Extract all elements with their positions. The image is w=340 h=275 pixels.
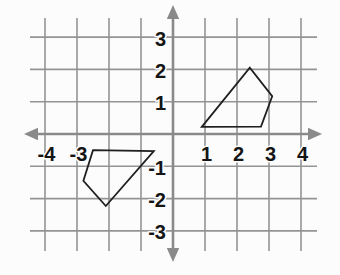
- y-tick-label: 2: [155, 60, 166, 82]
- x-tick-label: 2: [233, 143, 244, 165]
- x-tick-label: 4: [297, 143, 309, 165]
- figure-background: [0, 0, 340, 275]
- x-tick-label: 3: [265, 143, 276, 165]
- y-tick-label: -1: [148, 157, 166, 179]
- graph-figure: -4-31234321-1-2-3: [0, 0, 340, 275]
- y-tick-label: 3: [155, 28, 166, 50]
- x-tick-label: 1: [201, 143, 212, 165]
- y-tick-label: 1: [155, 92, 166, 114]
- x-tick-label: -3: [70, 143, 88, 165]
- y-tick-label: -3: [148, 221, 166, 243]
- coordinate-plane: -4-31234321-1-2-3: [0, 0, 340, 275]
- y-tick-label: -2: [148, 189, 166, 211]
- x-tick-label: -4: [38, 143, 57, 165]
